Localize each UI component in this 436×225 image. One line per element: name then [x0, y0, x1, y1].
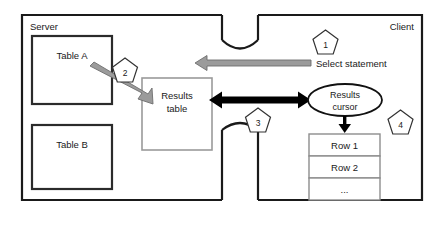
cursor-to-rows-arrow-head [339, 124, 352, 133]
row-2-label: Row 2 [331, 162, 358, 173]
results-transfer-arrow [209, 92, 311, 109]
callout-4-number: 4 [398, 120, 403, 130]
callout-1-number: 1 [323, 40, 328, 50]
table-b-box [32, 125, 112, 189]
top-gap-arc [222, 40, 258, 49]
results-table-label-line1: Results [161, 90, 193, 101]
client-zone-label: Client [390, 21, 415, 32]
callout-3: 3 [246, 108, 271, 132]
results-transfer-arrow-shape [209, 92, 311, 109]
table-a-label: Table A [56, 50, 88, 61]
results-cursor-label-line2: cursor [332, 102, 357, 112]
callout-3-number: 3 [256, 118, 261, 128]
row-1-label: Row 1 [331, 140, 358, 151]
select-statement-arrow-shape [195, 56, 311, 71]
callout-1: 1 [313, 30, 338, 54]
callout-2: 2 [113, 58, 138, 82]
diagram-canvas: Server Client Table A Table B Results ta… [0, 0, 436, 225]
client-server-diagram: Server Client Table A Table B Results ta… [0, 0, 436, 225]
cursor-to-rows-arrow [339, 116, 352, 133]
callout-2-number: 2 [123, 68, 128, 78]
server-zone-label: Server [30, 21, 58, 32]
results-table-label-line2: table [167, 103, 188, 114]
results-cursor-label-line1: Results [330, 90, 361, 100]
select-statement-label: Select statement [316, 58, 387, 69]
select-statement-arrow [195, 56, 311, 71]
callout-4: 4 [388, 110, 413, 134]
row-ellipsis-label: ... [341, 184, 349, 195]
table-b-label: Table B [56, 139, 88, 150]
